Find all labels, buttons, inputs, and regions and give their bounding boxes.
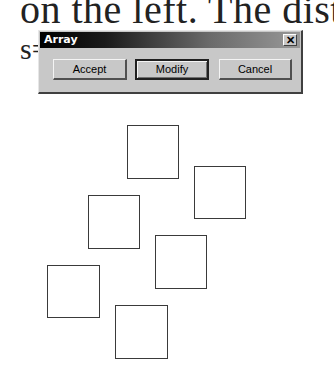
array-square[interactable] (155, 235, 207, 289)
accept-button[interactable]: Accept (53, 59, 127, 80)
array-square[interactable] (88, 195, 140, 249)
array-square[interactable] (47, 265, 100, 318)
close-icon: ✕ (286, 34, 295, 46)
close-button[interactable]: ✕ (283, 34, 297, 46)
document-text-line: on the left. The distance (20, 0, 334, 33)
dialog-titlebar[interactable]: Array ✕ (40, 32, 300, 48)
array-dialog: Array ✕ Accept Modify Cancel (38, 30, 303, 94)
array-square[interactable] (115, 305, 168, 359)
cancel-button[interactable]: Cancel (219, 59, 292, 80)
array-square[interactable] (194, 166, 246, 219)
array-square[interactable] (127, 125, 179, 179)
dialog-title: Array (44, 33, 78, 46)
modify-button[interactable]: Modify (135, 59, 209, 80)
